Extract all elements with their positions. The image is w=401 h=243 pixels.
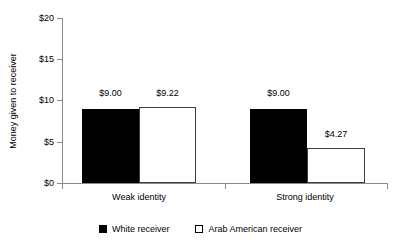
x-tick-mark-middle bbox=[225, 184, 226, 189]
x-category-label-strong-identity: Strong identity bbox=[248, 192, 362, 202]
y-tick-label-5: $5 bbox=[20, 138, 54, 147]
filled-square-icon bbox=[99, 225, 107, 233]
value-label-strong-white: $9.00 bbox=[250, 89, 307, 98]
value-label-weak-arab-american: $9.22 bbox=[139, 89, 196, 98]
legend-item-white-receiver: White receiver bbox=[99, 225, 170, 234]
value-label-strong-arab-american: $4.27 bbox=[307, 130, 365, 139]
legend-item-arab-american-receiver: Arab American receiver bbox=[195, 225, 302, 234]
y-tick-label-10: $10 bbox=[20, 96, 54, 105]
plot-area bbox=[62, 18, 388, 183]
bar-weak-arab-american-receiver bbox=[139, 107, 196, 183]
value-label-weak-white: $9.00 bbox=[82, 89, 139, 98]
y-tick-label-15: $15 bbox=[20, 55, 54, 64]
chart-legend: White receiver Arab American receiver bbox=[0, 222, 401, 236]
open-square-icon bbox=[195, 225, 203, 233]
bar-chart: Money given to receiver $20 $15 $10 $5 $… bbox=[0, 0, 401, 243]
y-axis-tick-labels: $20 $15 $10 $5 $0 bbox=[10, 0, 54, 243]
x-tick-mark-start bbox=[62, 184, 63, 189]
y-tick-label-20: $20 bbox=[20, 14, 54, 23]
x-tick-mark-end bbox=[387, 184, 388, 189]
x-category-label-weak-identity: Weak identity bbox=[82, 192, 196, 202]
bar-weak-white-receiver bbox=[82, 109, 139, 183]
legend-label-arab-american-receiver: Arab American receiver bbox=[208, 225, 302, 234]
y-tick-label-0: $0 bbox=[20, 179, 54, 188]
legend-label-white-receiver: White receiver bbox=[112, 225, 170, 234]
bar-strong-arab-american-receiver bbox=[307, 148, 365, 183]
bar-strong-white-receiver bbox=[250, 109, 307, 183]
